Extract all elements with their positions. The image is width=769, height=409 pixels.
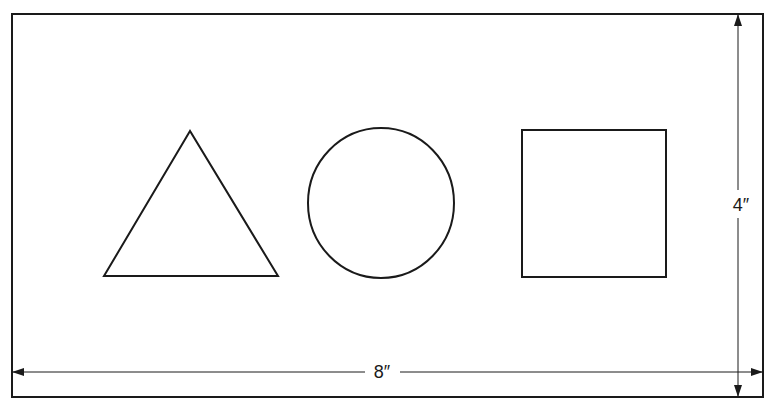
triangle-shape	[104, 131, 278, 276]
circle-shape	[308, 128, 454, 278]
height-label: 4″	[733, 195, 750, 215]
square-shape	[522, 130, 666, 277]
dimension-diagram: 8″ 4″	[0, 0, 769, 409]
width-label: 8″	[374, 362, 391, 382]
outer-rectangle	[12, 14, 763, 397]
